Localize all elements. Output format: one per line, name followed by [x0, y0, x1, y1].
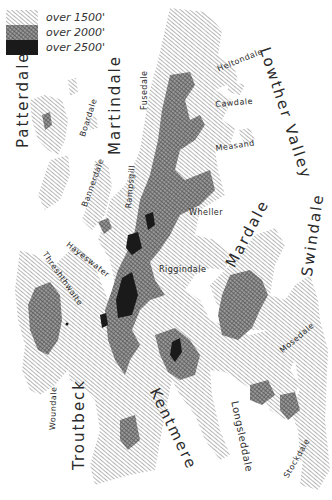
- legend-label: over 1500': [46, 11, 105, 24]
- label-fusedale: Fusedale: [140, 71, 149, 110]
- legend-label: over 2000': [46, 26, 105, 39]
- legend-item-1500: over 1500': [6, 10, 105, 25]
- label-woundale: Woundale: [48, 386, 59, 430]
- label-riggindale: Riggindale: [159, 265, 206, 274]
- legend-label: over 2500': [46, 41, 105, 54]
- light-hatch-swatch-icon: [6, 10, 38, 25]
- crosshatch-swatch-icon: [6, 25, 38, 40]
- label-wheller: Wheller: [189, 208, 223, 217]
- label-troutbeck: Troutbeck: [70, 379, 88, 470]
- label-martindale: Martindale: [106, 55, 124, 155]
- legend-item-2000: over 2000': [6, 25, 105, 40]
- map-legend: over 1500' over 2000' over 2500': [6, 10, 105, 55]
- label-patterdale: Patterdale: [14, 51, 32, 148]
